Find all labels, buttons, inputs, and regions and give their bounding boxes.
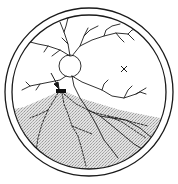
fundus-drawing — [0, 0, 178, 184]
macula-x-marker — [121, 66, 127, 72]
retina-diagram — [0, 0, 178, 184]
optic-disc — [59, 55, 81, 77]
detachment-region — [10, 92, 170, 180]
retinal-break — [56, 89, 66, 93]
arrow-icon — [51, 73, 59, 89]
